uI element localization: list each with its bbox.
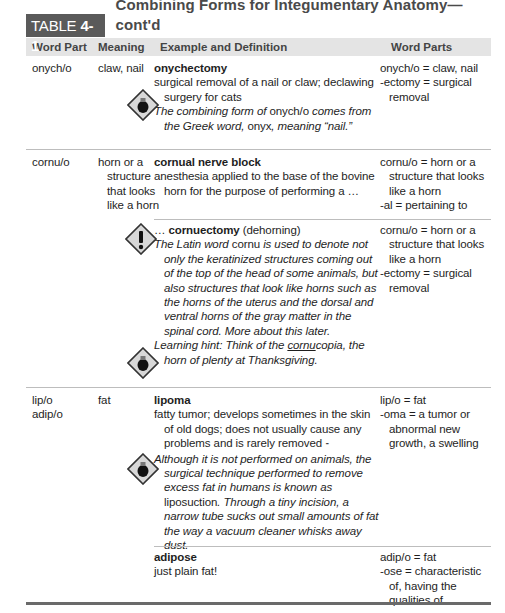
meaning: claw, nail xyxy=(98,61,158,75)
example-note: The Latin word cornu is used to denote n… xyxy=(154,237,379,338)
header-meaning: Meaning xyxy=(98,38,154,56)
lightbulb-icon xyxy=(127,89,159,121)
sub-row-divider xyxy=(154,546,491,547)
example-term: cornuectomy xyxy=(169,224,240,236)
note-roman-text: cornu xyxy=(232,238,260,250)
definition-text: fatty tumor; develops sometimes in the s… xyxy=(154,408,370,449)
note-text: , meaning “nail.” xyxy=(271,120,352,132)
word-part: lip/o xyxy=(32,393,63,407)
word-parts-cell: cornu/o = horn or a structure that looks… xyxy=(380,223,490,295)
exclamation-warning-icon xyxy=(125,223,157,255)
note-roman-text: liposuction xyxy=(164,496,217,508)
example-note: The combining form of onych/o comes from… xyxy=(154,104,379,133)
word-part-item: cornu/o = horn or a structure that looks… xyxy=(380,223,490,266)
word-part-item: onych/o = claw, nail xyxy=(380,61,490,75)
note-text: The Latin word xyxy=(154,238,232,250)
table-row-cornu: cornu/o horn or a structure that looks l… xyxy=(26,149,491,387)
definition-mark: ⁃ xyxy=(325,439,330,449)
example-cell: … cornuectomy (dehorning) The Latin word… xyxy=(154,223,379,367)
example-term: onychectomy xyxy=(154,61,379,75)
hint-underlined: cornu xyxy=(287,339,315,351)
hint-text: Learning hint: Think of the xyxy=(154,339,287,351)
word-part: cornu/o xyxy=(32,155,70,169)
note-roman-text: onych/o xyxy=(269,105,309,117)
example-cell: adipose just plain fat! xyxy=(154,550,379,579)
word-part-item: cornu/o = horn or a structure that looks… xyxy=(380,155,490,198)
term-suffix: (dehorning) xyxy=(240,224,301,236)
word-part-item: adip/o = fat xyxy=(380,550,490,564)
example-definition: just plain fat! xyxy=(154,564,379,578)
word-part-item: -ectomy = surgical removal xyxy=(380,75,490,104)
example-term: lipoma xyxy=(154,393,379,407)
sub-row-divider xyxy=(154,219,491,220)
word-parts-cell: cornu/o = horn or a structure that looks… xyxy=(380,155,490,213)
learning-hint: Learning hint: Think of the cornucopia, … xyxy=(154,338,379,367)
example-definition: fatty tumor; develops sometimes in the s… xyxy=(154,407,379,451)
table-header-row: Word Part Meaning Example and Definition… xyxy=(26,38,491,56)
example-cell: cornual nerve block anesthesia applied t… xyxy=(154,155,379,198)
header-example-definition: Example and Definition xyxy=(154,38,385,56)
example-definition: anesthesia applied to the base of the bo… xyxy=(154,169,379,198)
table-row-onych: onych/o claw, nail onychectomy surgical … xyxy=(26,56,491,149)
example-term: cornual nerve block xyxy=(154,155,379,169)
table-title: Combining Forms for Integumentary Anatom… xyxy=(116,0,492,37)
word-part-item: -oma = a tumor or abnormal new growth, a… xyxy=(380,407,490,450)
example-term-line: … cornuectomy (dehorning) xyxy=(154,223,379,237)
table-label-prefix: TABLE xyxy=(31,17,80,34)
table-page: TABLE 4-1 Combining Forms for Integument… xyxy=(26,0,491,613)
word-part-item: -al = pertaining to xyxy=(380,198,490,212)
word-part: onych/o xyxy=(32,61,72,75)
table-title-bar: TABLE 4-1 Combining Forms for Integument… xyxy=(26,8,491,37)
note-text: Although it is not performed on animals,… xyxy=(154,453,371,494)
table-bottom-rule xyxy=(26,602,491,605)
example-note: Although it is not performed on animals,… xyxy=(154,452,379,553)
example-term: adipose xyxy=(154,550,379,564)
word-part-item: -ectomy = surgical removal xyxy=(380,266,490,295)
note-roman-text: onyx xyxy=(247,120,271,132)
table-label: TABLE 4-1 xyxy=(26,14,105,37)
example-cell: onychectomy surgical removal of a nail o… xyxy=(154,61,379,133)
word-parts-cell: onych/o = claw, nail -ectomy = surgical … xyxy=(380,61,490,104)
note-text: The combining form of xyxy=(154,105,269,117)
meaning: fat xyxy=(98,393,158,407)
lightbulb-icon xyxy=(127,347,159,379)
example-definition: surgical removal of a nail or claw; decl… xyxy=(154,75,379,104)
word-part: adip/o xyxy=(32,407,63,421)
note-text: is used to denote not only the keratiniz… xyxy=(164,238,378,336)
word-parts-cell: adip/o = fat -ose = characteristic of, h… xyxy=(380,550,490,608)
word-parts-cell: lip/o = fat -oma = a tumor or abnormal n… xyxy=(380,393,490,451)
word-part-cell: lip/o adip/o xyxy=(32,393,63,422)
header-word-parts: Word Parts xyxy=(385,38,452,56)
table-row-lip: lip/o adip/o fat lipoma fatty tumor; dev… xyxy=(26,387,491,613)
example-cell: lipoma fatty tumor; develops sometimes i… xyxy=(154,393,379,552)
word-part-item: lip/o = fat xyxy=(380,393,490,407)
lightbulb-icon xyxy=(127,453,159,485)
